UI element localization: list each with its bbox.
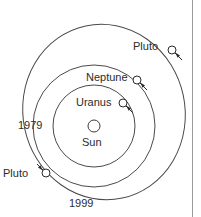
orbit-diagram-canvas [0, 0, 201, 217]
neptune-label: Neptune [86, 72, 128, 83]
pluto-orbit-path [6, 9, 201, 215]
year-1999-label: 1999 [69, 198, 93, 209]
figure-right-border [192, 0, 193, 217]
uranus-label: Uranus [76, 97, 111, 108]
sun-marker [88, 120, 100, 132]
uranus-marker [119, 99, 127, 107]
orbit-diagram-figure: Pluto Neptune Uranus Sun 1979 Pluto 1999 [0, 0, 201, 217]
year-1979-label: 1979 [18, 120, 42, 131]
pluto-1999-label: Pluto [3, 168, 28, 179]
neptune-marker [133, 76, 141, 84]
sun-label: Sun [82, 137, 102, 148]
pluto-1979-marker [168, 46, 176, 54]
pluto-1979-label: Pluto [133, 41, 158, 52]
pluto-1999-marker [42, 169, 50, 177]
